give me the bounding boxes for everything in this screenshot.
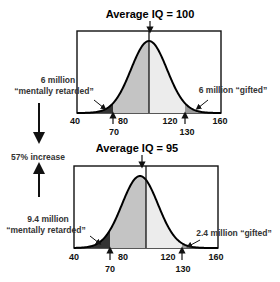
top-tick-160: 160 [212,116,227,126]
bottom-right-annotation: 2.4 million “gifted” [196,228,272,238]
top-right-annotation: 6 million “gifted” [199,85,267,95]
bottom-left-annotation-line1: 9.4 million [27,214,69,224]
top-tick-40: 40 [70,116,80,126]
top-left-annotation-line1: 6 million [41,75,75,85]
increase-indicator: 57% increase [11,103,65,197]
bottom-tick-160: 160 [208,252,223,262]
top-marker-130: 130 [179,127,194,137]
bottom-left-annotation-line2: “mentally retarded” [6,225,85,235]
top-tick-120: 120 [162,116,177,126]
iq-diagram: Average IQ = 100 6 million “mentally ret… [0,0,280,282]
top-marker-70: 70 [109,127,119,137]
increase-label: 57% increase [11,152,65,162]
bottom-tick-40: 40 [69,252,79,262]
top-right-pointer [198,100,208,108]
top-left-annotation-line2: “mentally retarded” [14,86,93,96]
top-tick-80: 80 [118,116,128,126]
bottom-left-pointer [90,236,99,243]
bottom-tick-80: 80 [118,252,128,262]
bottom-title: Average IQ = 95 [96,142,178,154]
bottom-right-pointer [189,240,200,246]
bottom-marker-130: 130 [175,264,190,274]
top-left-pointer [94,100,104,108]
bottom-tick-120: 120 [160,252,175,262]
top-title: Average IQ = 100 [106,8,195,20]
bottom-marker-70: 70 [105,264,115,274]
top-panel: Average IQ = 100 6 million “mentally ret… [14,8,267,137]
